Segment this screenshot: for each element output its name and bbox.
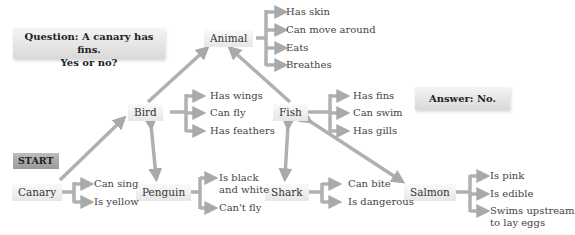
answer-text: Answer: No.: [429, 93, 496, 104]
fish-prop-has-fins: Has fins: [353, 90, 394, 102]
node-fish: Fish: [273, 104, 308, 121]
isa-arrow-canary-bird: [60, 120, 122, 180]
fish-prop-can-swim: Can swim: [353, 107, 403, 119]
salmon-prop-swims-upstream: Swims upstream to lay eggs: [490, 205, 575, 229]
animal-prop-eats: Eats: [286, 42, 308, 54]
question-line-1: Question: A canary has fins.: [13, 30, 165, 56]
bird-prop-has-wings: Has wings: [210, 90, 263, 102]
start-badge: START: [13, 153, 59, 169]
isa-arrow-penguin-bird: [151, 125, 156, 176]
penguin-prop-is-black-and-white: Is black and white: [219, 172, 269, 196]
node-penguin: Penguin: [136, 184, 191, 201]
fish-prop-has-gills: Has gills: [353, 125, 397, 137]
node-bird: Bird: [128, 104, 163, 121]
salmon-prop-is-pink: Is pink: [490, 170, 524, 182]
node-canary: Canary: [12, 184, 62, 201]
question-line-2: Yes or no?: [13, 56, 165, 69]
bird-prop-can-fly: Can fly: [210, 107, 246, 119]
animal-prop-has-skin: Has skin: [286, 6, 330, 18]
isa-arrow-shark-fish: [285, 125, 288, 176]
canary-prop-is-yellow: Is yellow: [94, 196, 139, 208]
canary-prop-can-sing: Can sing: [94, 178, 138, 190]
animal-prop-breathes: Breathes: [286, 59, 332, 71]
answer-box: Answer: No.: [415, 87, 510, 110]
node-animal: Animal: [204, 30, 253, 47]
question-box: Question: A canary has fins. Yes or no?: [13, 28, 165, 59]
shark-prop-can-bite: Can bite: [348, 178, 391, 190]
animal-prop-can-move-around: Can move around: [286, 24, 376, 36]
bird-prop-has-feathers: Has feathers: [210, 125, 275, 137]
salmon-prop-is-edible: Is edible: [490, 188, 533, 200]
penguin-prop-cant-fly: Can't fly: [219, 202, 261, 214]
node-shark: Shark: [265, 184, 309, 201]
shark-prop-is-dangerous: Is dangerous: [348, 196, 414, 208]
